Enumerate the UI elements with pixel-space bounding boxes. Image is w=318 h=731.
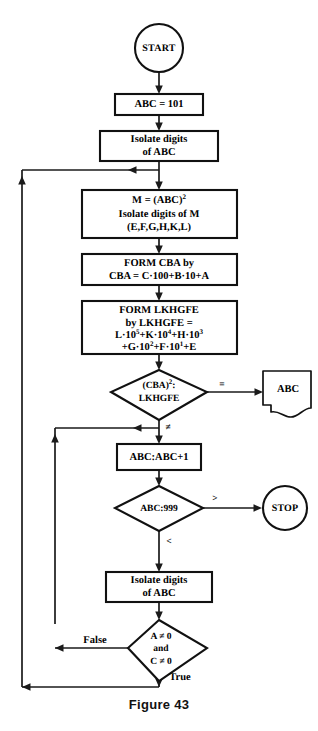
lkhgfe-term-g-base: +G·10 [122, 342, 150, 353]
arrowhead-true-to-outerloop [22, 683, 31, 691]
arrowhead-output-abc [255, 388, 264, 396]
branch-label-equal: = [219, 380, 224, 390]
node-compare-squares[interactable]: (CBA)2: LKHGFE [111, 370, 207, 420]
arrowhead-outerloop-up [18, 176, 26, 185]
figure-caption: Figure 43 [0, 697, 318, 712]
node-square-m[interactable]: M = (ABC)2 Isolate digits of M (E,F,G,H,… [82, 190, 237, 238]
node-form-cba[interactable]: FORM CBA by CBA = C·100+B·10+A [82, 254, 237, 285]
node-isolate-abc-1[interactable]: Isolate digits of ABC [100, 131, 218, 161]
node-form-lkhgfe[interactable]: FORM LKHGFE by LKHGFE = L·105+K·104+H·10… [82, 301, 237, 354]
branch-label-less: < [166, 537, 171, 547]
isolate-abc-2-line1: Isolate digits [131, 575, 188, 586]
node-stop[interactable]: STOP [263, 486, 307, 530]
isolate-abc-1-line1: Isolate digits [131, 134, 188, 145]
arrowhead-formlkhgfe [155, 293, 163, 302]
increment-label: ABC:ABC+1 [129, 452, 188, 463]
arrowhead-isolate2 [155, 564, 163, 573]
compare-squares-base: (CBA) [142, 381, 168, 391]
node-check-nonzero[interactable]: A ≠ 0 and C ≠ 0 [128, 620, 207, 681]
lkhgfe-term-h-sup: 3 [199, 328, 203, 336]
branch-label-greater: > [212, 494, 217, 504]
arrowhead-checknonzero [155, 612, 163, 621]
form-lkhgfe-line1: FORM LKHGFE [119, 305, 199, 316]
arrowhead-innerloop-join [133, 424, 142, 432]
flowchart-canvas: START ABC = 101 Isolate digits of ABC M … [0, 0, 318, 731]
square-m-line1-base: M = (ABC) [132, 195, 183, 206]
branch-label-not-equal: ≠ [165, 423, 170, 433]
arrowhead-increment [155, 436, 163, 445]
lkhgfe-term-h-base: +H·10 [171, 330, 199, 341]
check-nonzero-line3: C ≠ 0 [150, 657, 172, 667]
isolate-abc-2-line2: of ABC [143, 588, 176, 599]
compare-999-label: ABC:999 [140, 504, 178, 514]
form-lkhgfe-line3: L·105+K·104+H·103 [115, 328, 203, 342]
arrowhead-init [155, 86, 163, 95]
stop-label: STOP [272, 503, 299, 514]
isolate-abc-1-line2: of ABC [143, 147, 176, 158]
lkhgfe-term-f-base: +F·10 [153, 342, 179, 353]
square-m-line1-sup: 2 [182, 193, 186, 201]
node-start[interactable]: START [135, 24, 183, 72]
node-increment[interactable]: ABC:ABC+1 [117, 444, 201, 470]
arrowhead-innerloop-up [51, 434, 59, 443]
arrowhead-compare999 [155, 478, 163, 487]
node-compare-999[interactable]: ABC:999 [115, 486, 203, 531]
form-cba-line2: CBA = C·100+B·10+A [109, 271, 210, 282]
flowchart-figure: START ABC = 101 Isolate digits of ABC M … [0, 0, 318, 731]
branch-label-false: False [83, 635, 107, 646]
arrowhead-compare-squares [155, 362, 163, 371]
arrowhead-outerloop-join [128, 166, 137, 174]
arrowhead-formcba [155, 246, 163, 255]
arrowhead-stop [254, 504, 263, 512]
check-nonzero-line2: and [153, 644, 169, 654]
arrowhead-isolate1 [155, 123, 163, 132]
init-label: ABC = 101 [134, 99, 183, 110]
lkhgfe-term-k-base: +K·10 [140, 330, 168, 341]
arrowhead-false-branch [55, 644, 64, 652]
compare-squares-colon: : [172, 381, 175, 391]
node-init[interactable]: ABC = 101 [115, 94, 203, 115]
branch-label-true: True [169, 672, 191, 683]
check-nonzero-line1: A ≠ 0 [150, 632, 171, 642]
square-m-line3: (E,F,G,H,K,L) [127, 222, 192, 233]
form-lkhgfe-line4: +G·102+F·101+E [122, 340, 197, 354]
lkhgfe-term-l-base: L·10 [115, 330, 136, 341]
start-label: START [142, 43, 175, 54]
lkhgfe-term-e-base: +E [183, 342, 196, 353]
node-isolate-abc-2[interactable]: Isolate digits of ABC [106, 572, 212, 602]
compare-squares-line2: LKHGFE [139, 394, 180, 404]
arrowhead-squarem [155, 182, 163, 191]
square-m-line1: M = (ABC)2 [132, 193, 186, 207]
square-m-line2: Isolate digits of M [119, 209, 200, 220]
form-cba-line1: FORM CBA by [124, 258, 195, 269]
output-abc-label: ABC [277, 384, 299, 395]
node-output-abc[interactable]: ABC [263, 371, 311, 417]
